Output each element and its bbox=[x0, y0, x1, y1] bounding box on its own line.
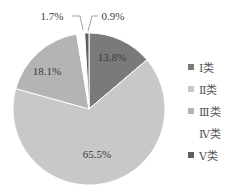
leader-line bbox=[88, 16, 98, 31]
slice-label: 13.8% bbox=[98, 51, 126, 63]
legend-item-class-2: Ⅱ类 bbox=[188, 78, 221, 100]
legend-item-class-5: Ⅴ类 bbox=[188, 144, 221, 166]
legend-swatch bbox=[188, 108, 194, 114]
legend: Ⅰ类 Ⅱ类 Ⅲ类 Ⅳ类 Ⅴ类 bbox=[188, 56, 221, 166]
slice-label: 18.1% bbox=[33, 65, 61, 77]
legend-swatch bbox=[188, 130, 194, 136]
slice-label: 0.9% bbox=[102, 10, 125, 22]
slice-label: 65.5% bbox=[83, 148, 111, 160]
legend-label: Ⅴ类 bbox=[199, 147, 218, 163]
legend-item-class-1: Ⅰ类 bbox=[188, 56, 221, 78]
slice-label: 1.7% bbox=[41, 10, 64, 22]
legend-label: Ⅲ类 bbox=[199, 103, 221, 119]
legend-swatch bbox=[188, 64, 194, 70]
legend-label: Ⅱ类 bbox=[199, 81, 217, 97]
legend-item-class-3: Ⅲ类 bbox=[188, 100, 221, 122]
legend-swatch bbox=[188, 86, 194, 92]
legend-item-class-4: Ⅳ类 bbox=[188, 122, 221, 144]
legend-swatch bbox=[188, 152, 194, 158]
legend-label: Ⅰ类 bbox=[199, 59, 214, 75]
leader-line bbox=[72, 16, 83, 30]
legend-label: Ⅳ类 bbox=[199, 125, 221, 141]
